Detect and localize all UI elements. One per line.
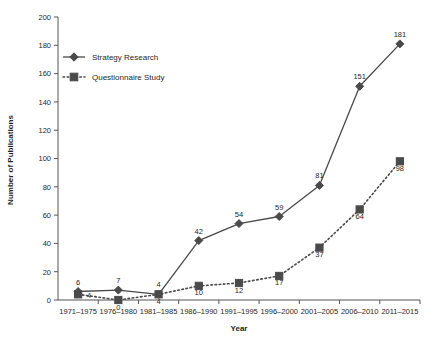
y-tick-label: 80: [43, 183, 51, 192]
data-point-marker: [235, 220, 243, 228]
x-axis: 1971–19751976–19801981–19851986–19901991…: [58, 300, 420, 316]
y-tick-label: 140: [38, 98, 51, 107]
x-tick-label: 1986–1990: [180, 307, 218, 316]
data-point-value-label: 10: [195, 288, 203, 297]
data-point-value-label: 81: [315, 171, 323, 180]
y-tick-label: 180: [38, 41, 51, 50]
y-tick-label: 60: [43, 211, 51, 220]
diamond-marker-icon: [70, 53, 78, 61]
data-point-value-label: 54: [235, 210, 243, 219]
data-point-value-label: 7: [116, 276, 120, 285]
legend-label-2: Questionnaire Study: [92, 73, 165, 82]
data-point-value-label: 37: [315, 250, 323, 259]
x-tick-label: 1996–2000: [260, 307, 298, 316]
x-tick-label: 2011–2015: [381, 307, 418, 316]
y-tick-label: 40: [43, 239, 51, 248]
chart-canvas: 020406080100120140160180200 1971–1975197…: [0, 0, 438, 337]
y-axis: 020406080100120140160180200: [38, 13, 58, 305]
y-axis-title: Number of Publications: [6, 115, 15, 205]
data-point-value-label: 151: [353, 72, 366, 81]
chart-legend: Strategy ResearchQuestionnaire Study: [63, 53, 165, 82]
x-tick-label: 2006–2010: [341, 307, 379, 316]
data-point-value-label: 59: [275, 203, 283, 212]
data-point-value-label: 6: [76, 278, 80, 287]
square-marker-icon: [70, 73, 78, 81]
y-tick-label: 100: [38, 154, 51, 163]
data-point-value-label: 4: [87, 291, 91, 300]
data-point-value-label: 42: [195, 227, 203, 236]
data-point-value-label: 64: [355, 212, 363, 221]
data-point-value-label: 98: [396, 164, 404, 173]
legend-label-1: Strategy Research: [92, 53, 158, 62]
x-tick-label: 1981–1985: [140, 307, 178, 316]
y-tick-label: 120: [38, 126, 51, 135]
data-point-marker: [75, 291, 82, 298]
data-point-value-label: 12: [235, 286, 243, 295]
data-point-value-label: 181: [394, 30, 407, 39]
y-tick-label: 200: [38, 13, 51, 22]
y-tick-label: 20: [43, 268, 51, 277]
x-tick-label: 1991–1995: [220, 307, 258, 316]
data-point-value-label: 17: [275, 278, 283, 287]
x-tick-label: 1971–1975: [59, 307, 97, 316]
data-point-value-label: 4: [156, 280, 160, 289]
data-point-value-label: 0: [116, 303, 120, 312]
x-tick-label: 2001–2005: [301, 307, 339, 316]
y-tick-label: 0: [47, 296, 51, 305]
y-tick-label: 160: [38, 69, 51, 78]
publications-line-chart: 020406080100120140160180200 1971–1975197…: [0, 0, 438, 337]
data-point-marker: [114, 286, 122, 294]
x-axis-title: Year: [231, 324, 248, 333]
data-point-value-label: 4: [156, 297, 160, 306]
